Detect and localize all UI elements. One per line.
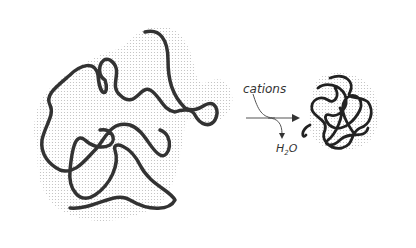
water-out-arrow bbox=[268, 118, 282, 134]
diagram-canvas bbox=[0, 0, 416, 248]
water-label-o: O bbox=[289, 142, 298, 155]
water-label: H2O bbox=[276, 142, 297, 157]
water-arrowhead-icon bbox=[279, 133, 285, 139]
cation-in-arrow bbox=[253, 94, 275, 118]
cations-label: cations bbox=[243, 82, 286, 96]
arrowhead-icon bbox=[292, 114, 300, 122]
